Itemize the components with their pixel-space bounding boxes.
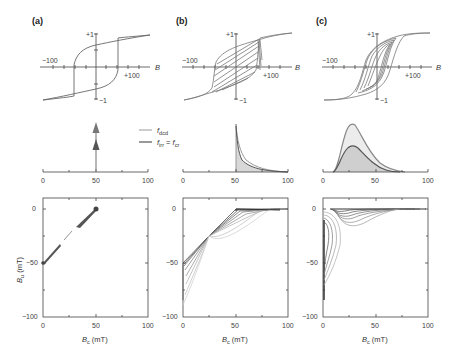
forc-ytick-0-b: 0 xyxy=(172,205,176,212)
forc-xtick-0-a: 0 xyxy=(41,322,45,329)
panel-c: (c) −100 +100 +1 −1 B xyxy=(302,16,441,345)
forc-ytick-100-c: −100 xyxy=(302,313,318,320)
dist-tick-0-b: 0 xyxy=(181,177,185,184)
dist-tick-100-c: 100 xyxy=(422,177,434,184)
dist-tick-0-a: 0 xyxy=(41,177,45,184)
dist-tick-50-c: 50 xyxy=(371,177,379,184)
forc-xtick-0-b: 0 xyxy=(181,322,185,329)
forc-xtick-100-a: 100 xyxy=(142,322,154,329)
x-tick-pos-b: +100 xyxy=(263,72,279,79)
x-tick-pos-c: +100 xyxy=(405,72,421,79)
legend-f-irr-cr: firr = fcr xyxy=(157,138,179,148)
panel-b: (b) −100 +100 +1 −1 B xyxy=(162,16,300,345)
forc-ytick-100-a: −100 xyxy=(22,313,38,320)
forc-plot-b: 0 −50 −100 0 50 100 Bc (mT) xyxy=(162,198,294,345)
forc-xtick-0-c: 0 xyxy=(321,322,325,329)
hysteresis-plot-c xyxy=(322,33,432,100)
x-tick-neg-c: −100 xyxy=(322,57,338,64)
forc-xtick-100-b: 100 xyxy=(282,322,294,329)
panel-label-c: (c) xyxy=(316,16,327,26)
forc-ytick-50-c: −50 xyxy=(306,259,318,266)
x-tick-neg-a: −100 xyxy=(42,57,58,64)
dist-tick-0-c: 0 xyxy=(321,177,325,184)
forc-xtick-50-c: 50 xyxy=(371,322,379,329)
x-tick-pos-a: +100 xyxy=(124,72,140,79)
forc-xlabel-a: Bc (mT) xyxy=(82,335,108,345)
y-tick-pos-b: +1 xyxy=(226,31,234,38)
legend: fdcd firr = fcr xyxy=(139,126,179,148)
forc-xlabel-b: Bc (mT) xyxy=(222,335,248,345)
dist-tick-50-a: 50 xyxy=(92,177,100,184)
distribution-plot-b: 0 50 100 xyxy=(181,124,294,184)
forc-xtick-100-c: 100 xyxy=(422,322,434,329)
forc-xtick-50-b: 50 xyxy=(231,322,239,329)
y-tick-neg-a: −1 xyxy=(99,97,107,104)
x-label-B-c: B xyxy=(436,63,441,72)
dist-tick-50-b: 50 xyxy=(231,177,239,184)
forc-ytick-50-a: −50 xyxy=(26,259,38,266)
panel-label-b: (b) xyxy=(176,16,188,26)
forc-ytick-100-b: −100 xyxy=(162,313,178,320)
forc-xlabel-c: Bc (mT) xyxy=(362,335,388,345)
forc-plot-c: 0 −50 −100 0 50 100 Bc (mT) xyxy=(302,198,434,345)
x-tick-neg-b: −100 xyxy=(182,57,198,64)
y-tick-neg-b: −1 xyxy=(239,97,247,104)
dist-tick-100-a: 100 xyxy=(142,177,154,184)
panel-label-a: (a) xyxy=(32,16,43,26)
panel-a: (a) −100 +100 +1 −1 B xyxy=(15,16,179,345)
figure: (a) −100 +100 +1 −1 B xyxy=(0,0,450,357)
distribution-plot-c: 0 50 100 xyxy=(321,124,434,184)
forc-xtick-50-a: 50 xyxy=(92,322,100,329)
forc-ytick-0-a: 0 xyxy=(32,205,36,212)
y-tick-neg-c: −1 xyxy=(380,97,388,104)
forc-ytick-50-b: −50 xyxy=(166,259,178,266)
distribution-plot-a: 0 50 100 xyxy=(41,122,154,184)
y-tick-pos-a: +1 xyxy=(86,31,94,38)
y-tick-pos-c: +1 xyxy=(367,31,375,38)
x-label-B-b: B xyxy=(295,63,300,72)
legend-f-dcd: fdcd xyxy=(157,126,168,136)
forc-plot-a: 0 −50 −100 0 50 100 Bc (mT) Bu (mT) xyxy=(15,198,154,345)
hysteresis-plot-a xyxy=(40,33,150,100)
forc-ytick-0-c: 0 xyxy=(312,205,316,212)
forc-ylabel-a: Bu (mT) xyxy=(15,257,25,283)
dist-tick-100-b: 100 xyxy=(282,177,294,184)
x-label-B-a: B xyxy=(155,63,160,72)
